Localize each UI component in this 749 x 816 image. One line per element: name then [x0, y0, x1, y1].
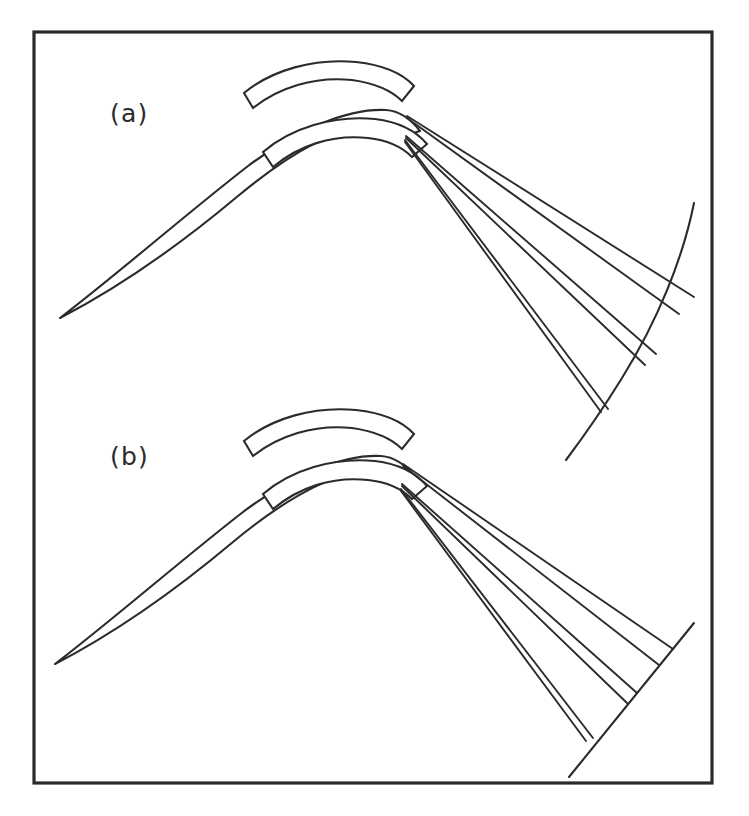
panel-a-outer-shell-band: [244, 61, 414, 108]
panel-a-airfoil-body: [60, 110, 420, 318]
panel-a-group: (a): [60, 61, 694, 460]
panel-b-ray-3-lower: [401, 491, 586, 741]
panel-a-ray-2-lower: [406, 138, 645, 365]
panel-b-ray-2-upper: [402, 484, 637, 693]
panel-b-ray-3-upper: [401, 489, 593, 738]
panel-b-ray-1-lower: [403, 466, 659, 665]
figure-container: (a) (b): [0, 0, 749, 816]
panel-b-target-surface-line: [569, 623, 694, 777]
panel-a-ray-3-upper: [405, 140, 608, 409]
panel-b-label: (b): [110, 442, 149, 471]
panel-b-group: (b): [55, 409, 694, 777]
panel-a-ray-2-upper: [406, 136, 656, 354]
panel-b-airfoil-body: [55, 456, 415, 664]
technical-diagram-canvas: (a) (b): [0, 0, 749, 816]
panel-b-ray-1-upper: [403, 464, 673, 649]
panel-a-ray-1-lower: [407, 118, 679, 314]
panel-b-outer-shell-band: [244, 409, 414, 456]
panel-a-ray-1-upper: [407, 116, 694, 297]
panel-a-label: (a): [110, 99, 148, 128]
panel-a-ray-3-lower: [405, 142, 601, 412]
